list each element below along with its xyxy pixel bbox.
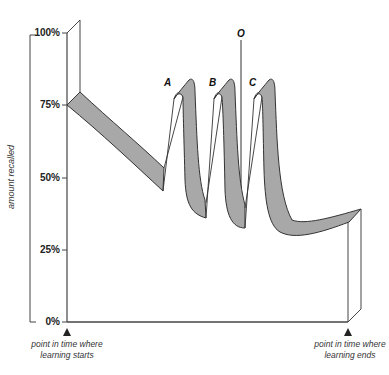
- end-annotation: point in time where learning ends: [300, 339, 389, 361]
- tick-0: 0%: [20, 316, 60, 327]
- tick-100: 100%: [20, 27, 60, 38]
- ribbon-review-a: [174, 79, 206, 218]
- tick-25: 25%: [20, 244, 60, 255]
- ribbon-decay-1: [67, 92, 164, 191]
- top-depth-edge: [67, 20, 80, 33]
- label-a: A: [164, 77, 171, 88]
- label-c: C: [249, 77, 256, 88]
- label-b: B: [209, 77, 216, 88]
- end-marker-icon: [344, 328, 352, 336]
- y-axis-label: amount recalled: [6, 145, 16, 209]
- ribbon-review-c: [254, 79, 361, 235]
- tick-75: 75%: [20, 99, 60, 110]
- label-o: O: [237, 28, 245, 39]
- start-annotation: point in time where learning starts: [17, 339, 117, 361]
- start-marker-icon: [63, 328, 71, 336]
- tick-50: 50%: [20, 172, 60, 183]
- ribbon-review-b: [214, 79, 245, 228]
